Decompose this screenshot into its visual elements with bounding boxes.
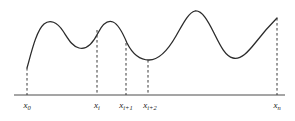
tick-label-xi1: xi+1	[119, 101, 132, 110]
tick-label-xi2: xi+2	[143, 101, 156, 110]
tick-label-xi2-sub: i+2	[147, 104, 156, 111]
tick-label-xi-sub: i	[98, 104, 100, 111]
tick-label-xi1-sub: i+1	[123, 104, 132, 111]
function-curve	[27, 11, 277, 68]
tick-label-x0-sub: 0	[27, 104, 30, 111]
tick-label-xn: xn	[273, 101, 280, 110]
tick-label-x0: x0	[23, 101, 30, 110]
figure-container: x0 xi xi+1 xi+2 xn	[0, 0, 295, 121]
tick-label-xn-sub: n	[277, 104, 280, 111]
tick-label-xi: xi	[94, 101, 100, 110]
